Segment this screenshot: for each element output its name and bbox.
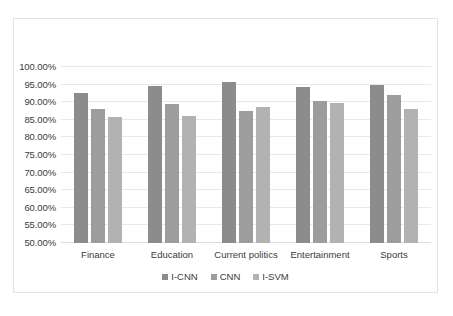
bar-i-svm-sports[interactable]: [404, 109, 418, 243]
bar-cnn-entertainment[interactable]: [313, 101, 327, 243]
bar-group: Sports: [357, 67, 431, 243]
bar-group: Finance: [61, 67, 135, 243]
x-axis-category-label: Education: [151, 249, 193, 260]
bar-group: Entertainment: [283, 67, 357, 243]
y-axis-tick-label: 60.00%: [24, 201, 56, 212]
bar-cnn-sports[interactable]: [387, 95, 401, 243]
y-axis-tick-label: 100.00%: [19, 61, 56, 72]
bar-i-cnn-current-politics[interactable]: [222, 82, 236, 243]
bar-i-svm-current-politics[interactable]: [256, 107, 270, 243]
plot-area: 50.00%55.00%60.00%65.00%70.00%75.00%80.0…: [61, 67, 431, 243]
bar-i-svm-education[interactable]: [182, 116, 196, 243]
chart-figure: 50.00%55.00%60.00%65.00%70.00%75.00%80.0…: [13, 18, 438, 293]
y-axis-tick-label: 90.00%: [24, 96, 56, 107]
legend-item-i-svm[interactable]: I-SVM: [253, 271, 288, 282]
bar-i-cnn-entertainment[interactable]: [296, 87, 310, 243]
bar-cnn-finance[interactable]: [91, 109, 105, 243]
bar-i-cnn-education[interactable]: [148, 86, 162, 243]
bar-cnn-current-politics[interactable]: [239, 111, 253, 243]
y-axis-tick-label: 75.00%: [24, 149, 56, 160]
y-axis-tick-label: 70.00%: [24, 166, 56, 177]
x-axis-category-label: Current politics: [214, 249, 277, 260]
x-axis-category-label: Entertainment: [290, 249, 349, 260]
y-axis-tick-label: 65.00%: [24, 184, 56, 195]
bar-i-cnn-finance[interactable]: [74, 93, 88, 243]
bar-group: Education: [135, 67, 209, 243]
y-axis-tick-label: 80.00%: [24, 131, 56, 142]
x-axis-category-label: Sports: [380, 249, 407, 260]
legend-item-cnn[interactable]: CNN: [211, 271, 241, 282]
bar-cnn-education[interactable]: [165, 104, 179, 243]
legend-label: I-CNN: [171, 271, 197, 282]
bar-i-svm-entertainment[interactable]: [330, 103, 344, 243]
y-axis-tick-label: 55.00%: [24, 219, 56, 230]
legend-swatch-icon: [162, 274, 168, 280]
y-axis-tick-label: 50.00%: [24, 237, 56, 248]
y-axis-tick-label: 85.00%: [24, 113, 56, 124]
bar-i-svm-finance[interactable]: [108, 117, 122, 243]
legend-label: I-SVM: [262, 271, 288, 282]
bar-i-cnn-sports[interactable]: [370, 85, 384, 243]
x-axis-category-label: Finance: [81, 249, 115, 260]
legend-swatch-icon: [211, 274, 217, 280]
legend-swatch-icon: [253, 274, 259, 280]
legend-item-i-cnn[interactable]: I-CNN: [162, 271, 197, 282]
chart-legend: I-CNNCNNI-SVM: [14, 271, 437, 282]
bar-group: Current politics: [209, 67, 283, 243]
legend-label: CNN: [220, 271, 241, 282]
y-axis-tick-label: 95.00%: [24, 78, 56, 89]
